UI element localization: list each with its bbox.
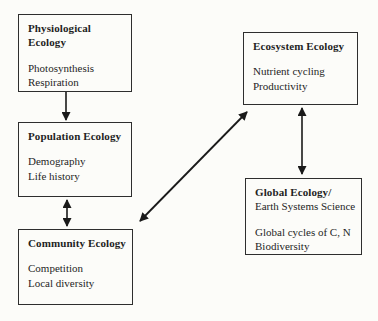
node-line: Life history (28, 169, 128, 183)
node-line: Nutrient cycling (253, 64, 354, 78)
node-line: Local diversity (28, 276, 129, 290)
node-physiological-ecology: Physiological Ecology Photosynthesis Res… (18, 14, 132, 92)
node-line: Productivity (253, 79, 354, 93)
node-global-ecology: Global Ecology/ Earth Systems Science Gl… (245, 178, 362, 255)
diagram-canvas: Physiological Ecology Photosynthesis Res… (0, 0, 378, 321)
node-community-ecology: Community Ecology Competition Local dive… (18, 229, 133, 305)
node-line: Global cycles of C, N (255, 225, 358, 239)
node-title: Population Ecology (28, 129, 128, 143)
arrow-community-ecosystem-two-way (140, 112, 247, 221)
node-title: Community Ecology (28, 236, 129, 250)
node-line: Demography (28, 154, 128, 168)
node-line: Photosynthesis (28, 61, 128, 75)
node-line: Biodiversity (255, 239, 358, 253)
node-line: Respiration (28, 75, 128, 89)
node-title: Global Ecology/ (255, 185, 358, 199)
node-title: Ecosystem Ecology (253, 39, 354, 53)
node-subtitle: Earth Systems Science (255, 199, 358, 213)
node-title: Physiological Ecology (28, 21, 128, 50)
node-ecosystem-ecology: Ecosystem Ecology Nutrient cycling Produ… (243, 32, 358, 105)
node-population-ecology: Population Ecology Demography Life histo… (18, 122, 132, 197)
node-line: Competition (28, 261, 129, 275)
